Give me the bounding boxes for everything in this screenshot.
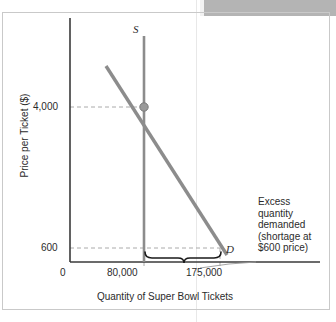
annotation-line-1: Excess (258, 196, 334, 208)
excess-quantity-demanded-annotation: Excess quantity demanded (shortage at $6… (258, 196, 334, 254)
y-tick-label-4000: 4,000 (33, 101, 58, 112)
demand-curve-label: D (226, 243, 234, 255)
x-axis-title: Quantity of Super Bowl Tickets (60, 291, 270, 302)
x-tick-label-175000: 175,000 (186, 267, 222, 278)
y-tick-label-600: 600 (41, 242, 58, 253)
equilibrium-point-marker (140, 103, 148, 111)
annotation-line-3: demanded (258, 219, 334, 231)
x-tick-label-80000: 80,000 (107, 267, 138, 278)
supply-demand-chart (0, 0, 336, 322)
annotation-line-4: (shortage at (258, 231, 334, 243)
y-axis-title: Price per Ticket ($) (19, 76, 30, 196)
x-tick-label-0: 0 (60, 267, 66, 278)
annotation-line-5: $600 price) (258, 242, 334, 254)
annotation-line-2: quantity (258, 208, 334, 220)
supply-curve-label: S (133, 23, 139, 35)
demand-curve (106, 66, 227, 255)
